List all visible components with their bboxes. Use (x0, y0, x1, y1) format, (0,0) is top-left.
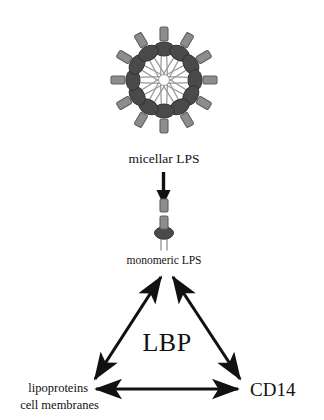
monomeric-lps-glyph (155, 199, 174, 250)
monomer-o-antigen-upper (160, 199, 168, 212)
monomeric-lps-label: monomeric LPS (126, 254, 201, 266)
micellar-lps-label: micellar LPS (129, 151, 200, 166)
cd14-label: CD14 (250, 379, 296, 400)
diagram-canvas: micellar LPS monomeric LPS (0, 0, 324, 420)
micelle-lps-units (111, 27, 217, 133)
lbp-label: LBP (142, 328, 191, 357)
lipoproteins-label: lipoproteins (28, 381, 88, 395)
cell-membranes-label: cell membranes (20, 398, 99, 412)
micellar-lps-aggregate (111, 27, 217, 133)
monomer-o-antigen-lower (160, 216, 168, 229)
lps-lbp-diagram: micellar LPS monomeric LPS (0, 0, 324, 420)
